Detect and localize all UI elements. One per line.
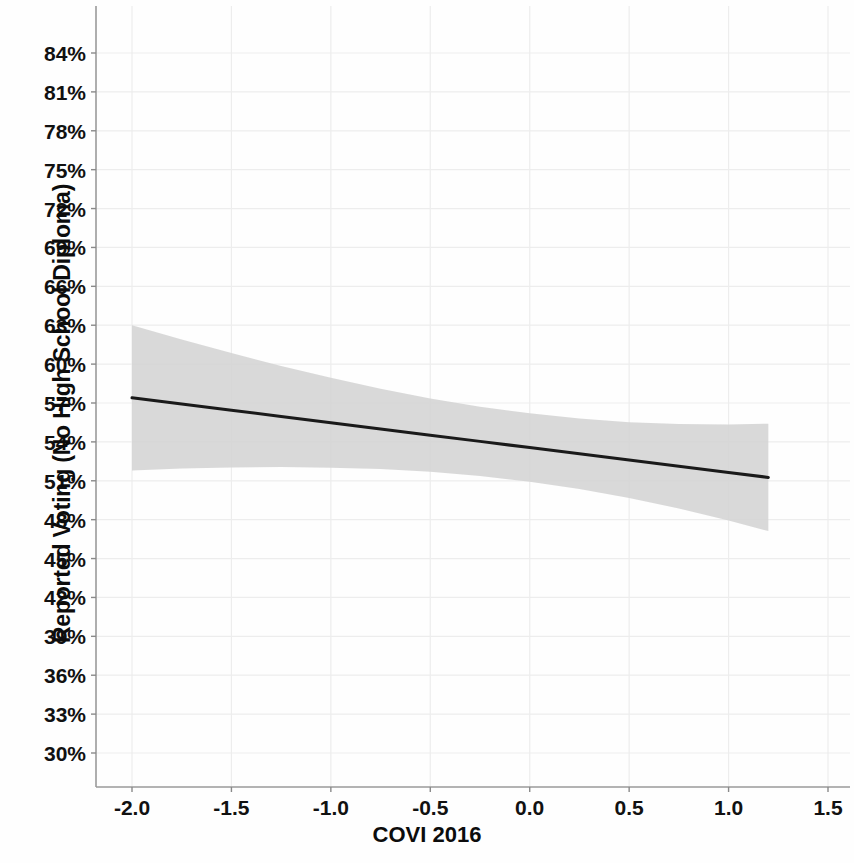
x-axis-title: COVI 2016: [0, 822, 854, 848]
confidence-band: [132, 325, 768, 531]
x-tick-label: 0.0: [485, 797, 575, 818]
x-tick-label: 1.0: [684, 797, 774, 818]
x-tick-label: -0.5: [385, 797, 475, 818]
x-tick-label: -2.0: [87, 797, 177, 818]
confidence-band-area: [132, 325, 768, 531]
x-tick-label: -1.0: [286, 797, 376, 818]
y-tick-label: 84%: [0, 43, 86, 64]
y-tick-label: 30%: [0, 743, 86, 764]
x-tick-label: -1.5: [186, 797, 276, 818]
plot-area: [0, 0, 854, 863]
x-tick-label: 0.5: [584, 797, 674, 818]
x-tick-label: 1.5: [783, 797, 854, 818]
y-axis-title: Reported Voting (No High School Diploma): [49, 94, 76, 734]
chart-figure: 30%33%36%39%42%45%48%51%54%57%60%63%66%6…: [0, 0, 854, 863]
